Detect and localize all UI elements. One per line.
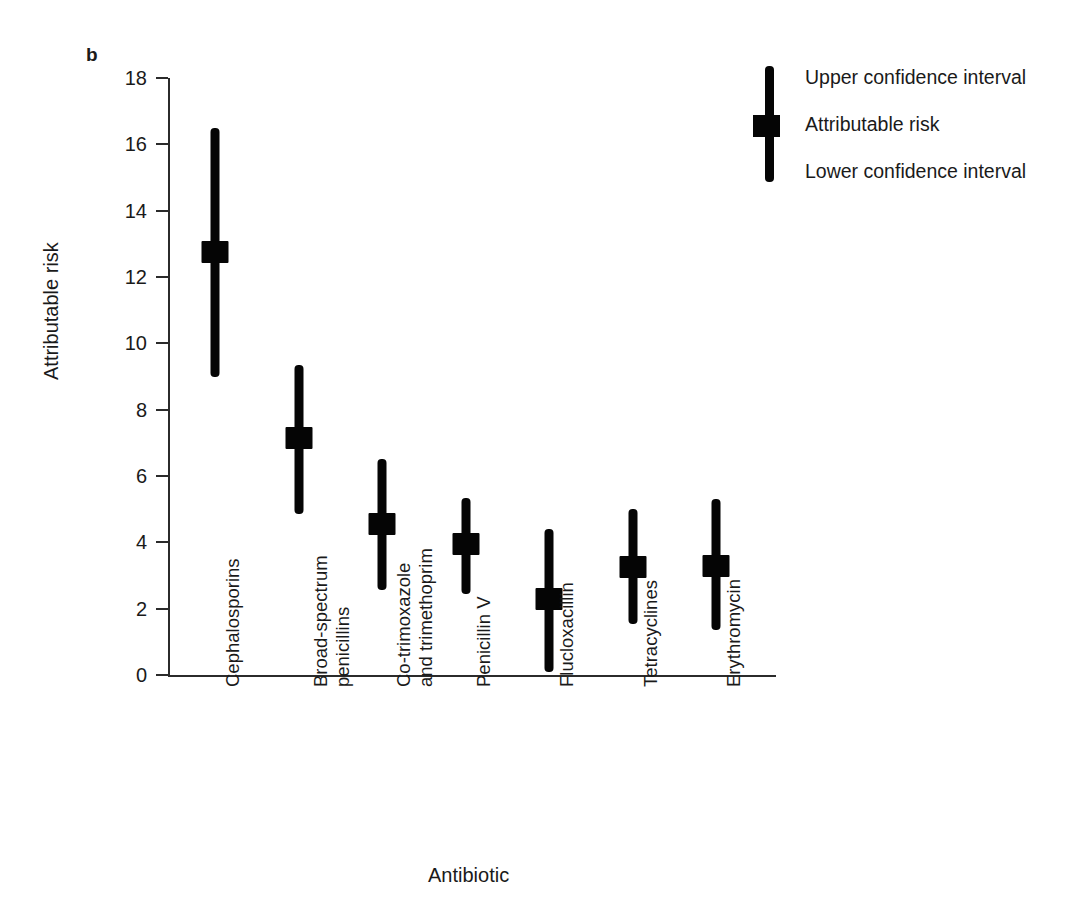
figure-panel-b: b 024681012141618 CephalosporinsBroad-sp… bbox=[0, 0, 1080, 908]
y-tick-label-6: 6 bbox=[136, 465, 147, 488]
x-axis-label-line: Penicillin V bbox=[473, 597, 494, 688]
x-axis-label-line: and trimethoprim bbox=[415, 548, 437, 687]
y-tick-0: 0 bbox=[156, 674, 168, 676]
legend: Upper confidence interval Attributable r… bbox=[757, 60, 1057, 190]
x-axis-label-line: penicillins bbox=[332, 555, 354, 687]
risk-marker bbox=[285, 427, 312, 449]
x-axis-label-4: Flucloxacillin bbox=[556, 582, 578, 687]
x-axis-title: Antibiotic bbox=[428, 864, 509, 887]
risk-marker bbox=[452, 533, 479, 555]
legend-item-attributable-risk: Attributable risk bbox=[805, 113, 939, 136]
x-axis-label-6: Erythromycin bbox=[723, 579, 745, 687]
x-axis-label-1: Broad-spectrumpenicillins bbox=[310, 555, 354, 687]
x-axis-label-line: Flucloxacillin bbox=[556, 582, 577, 687]
x-axis-label-2: Co-trimoxazoleand trimethoprim bbox=[393, 548, 437, 687]
x-axis-label-line: Tetracyclines bbox=[640, 580, 661, 687]
y-axis-line bbox=[168, 78, 170, 676]
x-axis-label-5: Tetracyclines bbox=[640, 580, 662, 687]
x-axis-label-line: Cephalosporins bbox=[222, 558, 243, 687]
y-tick-label-2: 2 bbox=[136, 597, 147, 620]
legend-item-lower-ci: Lower confidence interval bbox=[805, 160, 1026, 183]
x-axis-label-line: Erythromycin bbox=[723, 579, 744, 687]
y-tick-12: 12 bbox=[156, 276, 168, 278]
y-tick-14: 14 bbox=[156, 210, 168, 212]
risk-marker bbox=[619, 556, 646, 578]
y-tick-8: 8 bbox=[156, 409, 168, 411]
legend-marker-icon bbox=[753, 115, 780, 137]
x-axis-line bbox=[168, 675, 776, 677]
risk-marker bbox=[202, 241, 229, 263]
y-tick-label-8: 8 bbox=[136, 398, 147, 421]
y-tick-2: 2 bbox=[156, 608, 168, 610]
y-tick-18: 18 bbox=[156, 77, 168, 79]
risk-marker bbox=[369, 513, 396, 535]
legend-item-upper-ci: Upper confidence interval bbox=[805, 66, 1026, 89]
x-axis-label-line: Co-trimoxazole bbox=[393, 563, 414, 687]
y-tick-label-16: 16 bbox=[125, 133, 147, 156]
y-tick-label-14: 14 bbox=[125, 199, 147, 222]
y-tick-label-18: 18 bbox=[125, 67, 147, 90]
y-tick-4: 4 bbox=[156, 541, 168, 543]
y-tick-label-0: 0 bbox=[136, 664, 147, 687]
risk-marker bbox=[703, 555, 730, 577]
y-tick-6: 6 bbox=[156, 475, 168, 477]
y-tick-10: 10 bbox=[156, 342, 168, 344]
y-tick-label-10: 10 bbox=[125, 332, 147, 355]
x-axis-label-0: Cephalosporins bbox=[222, 558, 244, 687]
x-axis-label-3: Penicillin V bbox=[473, 597, 495, 688]
plot-area: 024681012141618 bbox=[168, 78, 776, 675]
y-tick-label-12: 12 bbox=[125, 266, 147, 289]
x-axis-label-line: Broad-spectrum bbox=[310, 555, 331, 687]
y-tick-label-4: 4 bbox=[136, 531, 147, 554]
panel-label: b bbox=[86, 44, 98, 66]
y-tick-16: 16 bbox=[156, 143, 168, 145]
y-axis-title: Attributable risk bbox=[40, 242, 63, 380]
